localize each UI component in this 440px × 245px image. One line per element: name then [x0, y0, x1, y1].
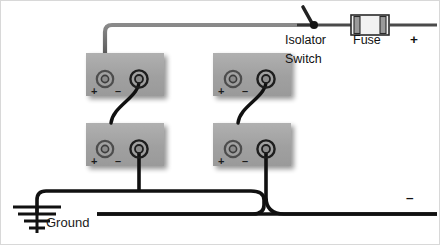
- battery-bottom-right-plus-sign: +: [218, 155, 224, 167]
- circuit-diagram: + – + – + – + – Isolator Switch Fuse + –…: [0, 0, 440, 245]
- switch-pivot-dot: [310, 21, 318, 29]
- battery-bottom-left-plus-sign: +: [91, 155, 97, 167]
- isolator-switch-label-line2: Switch: [285, 53, 322, 66]
- battery-top-left-minus-sign: –: [115, 85, 121, 97]
- battery-top-left-plus-sign: +: [91, 85, 97, 97]
- battery-bottom-right-minus-sign: –: [242, 155, 248, 167]
- battery-top-right-body: [213, 53, 291, 96]
- battery-top-right-plus-sign: +: [218, 85, 224, 97]
- isolator-switch[interactable]: [297, 7, 351, 29]
- battery-bottom-right-body: [213, 123, 291, 166]
- ground-label: Ground: [46, 216, 89, 230]
- isolator-switch-label-line1: Isolator: [285, 34, 326, 47]
- battery-bottom-left-minus-sign: –: [115, 155, 121, 167]
- fuse-symbol: [351, 15, 437, 35]
- battery-top-right-minus-sign: –: [242, 85, 248, 97]
- positive-output-label: +: [410, 33, 418, 47]
- negative-output-label: –: [406, 191, 414, 205]
- fuse-label: Fuse: [353, 34, 381, 47]
